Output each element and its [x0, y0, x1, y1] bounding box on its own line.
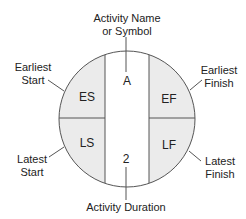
- label-earliest-finish: Earliest Finish: [196, 64, 242, 90]
- label-line: Start: [10, 166, 54, 179]
- cell-es: ES: [72, 90, 102, 104]
- ls-quadrant: [55, 118, 105, 193]
- es-quadrant: [55, 45, 105, 118]
- label-latest-start: Latest Start: [10, 153, 54, 179]
- lf-quadrant: [149, 118, 199, 193]
- label-latest-finish: Latest Finish: [198, 155, 242, 181]
- label-line: Earliest: [10, 61, 56, 74]
- ef-quadrant: [149, 45, 199, 118]
- cell-ef: EF: [154, 92, 184, 106]
- label-line: Latest: [10, 153, 54, 166]
- cell-activity-name: A: [112, 74, 142, 88]
- label-activity-duration: Activity Duration: [76, 201, 176, 214]
- label-line: Start: [10, 74, 56, 87]
- label-line: Activity Duration: [76, 201, 176, 214]
- label-line: or Symbol: [86, 25, 168, 38]
- label-line: Finish: [198, 168, 242, 181]
- cell-lf: LF: [154, 138, 184, 152]
- cell-ls: LS: [72, 136, 102, 150]
- label-line: Latest: [198, 155, 242, 168]
- label-line: Earliest: [196, 64, 242, 77]
- label-line: Finish: [196, 77, 242, 90]
- label-line: Activity Name: [86, 12, 168, 25]
- cell-duration: 2: [111, 152, 141, 166]
- center-column: [105, 45, 149, 195]
- label-activity-name: Activity Name or Symbol: [86, 12, 168, 38]
- label-earliest-start: Earliest Start: [10, 61, 56, 87]
